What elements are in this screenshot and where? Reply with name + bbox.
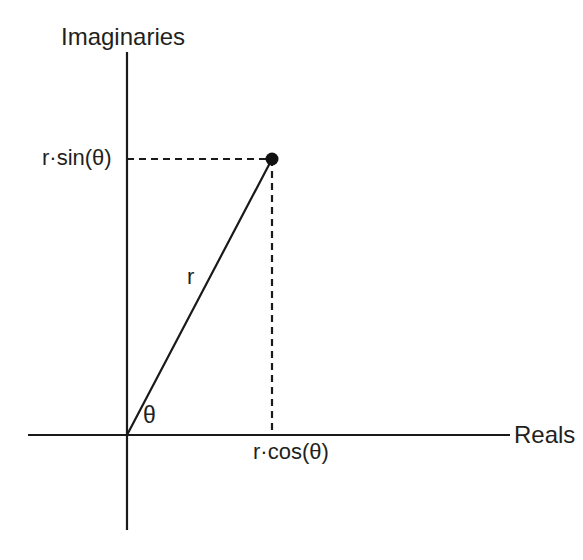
radius-label: r xyxy=(187,266,194,288)
complex-number-point xyxy=(266,153,279,166)
radius-segment xyxy=(127,159,272,435)
reals-axis-label: Reals xyxy=(514,423,575,447)
diagram-canvas xyxy=(0,0,583,560)
r-cos-theta-label: r·cos(θ) xyxy=(253,441,329,463)
r-sin-theta-label: r·sin(θ) xyxy=(42,147,112,169)
theta-angle-label: θ xyxy=(143,404,156,427)
imaginaries-axis-label: Imaginaries xyxy=(61,25,185,49)
complex-plane-diagram: Imaginaries r·sin(θ) r θ r·cos(θ) Reals xyxy=(0,0,583,560)
